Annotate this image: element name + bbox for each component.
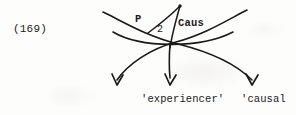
apex-node bbox=[178, 4, 181, 7]
label-caus: Caus bbox=[178, 17, 204, 29]
apex-spoke-left bbox=[148, 6, 180, 33]
label-index-2: 2 bbox=[157, 24, 163, 35]
role-label-experiencer: 'experiencer' bbox=[141, 93, 224, 105]
label-p: P bbox=[135, 13, 142, 25]
screenshot-root: (169) P 2 Caus 'experiencer' 'causal bbox=[0, 0, 296, 115]
role-label-causal: 'causal bbox=[241, 93, 286, 105]
middle-arrow-shaft bbox=[169, 44, 170, 78]
